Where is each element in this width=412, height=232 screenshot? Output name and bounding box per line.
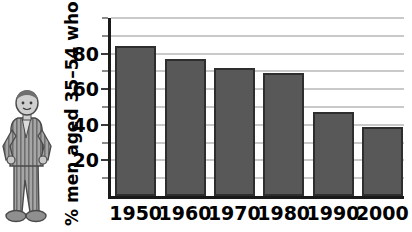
bar [115,46,156,196]
x-tick-label: 1980 [257,202,310,224]
y-tick-label: 40 [73,114,99,136]
y-tick-mark [101,53,108,55]
y-tick-label: 20 [73,149,99,171]
y-tick-mark [101,159,108,161]
gridline [111,17,404,19]
gridline [111,35,404,37]
chart-figure: % men aged 35–54 who smoke 20406080 1950… [0,0,412,232]
y-tick-mark [102,35,108,37]
y-tick-mark [102,106,108,108]
x-tick-label: 1990 [307,202,360,224]
y-tick-mark [102,70,108,72]
plot-area: 20406080 195019601970198019902000 [108,18,404,196]
y-tick-mark [102,17,108,19]
y-tick-mark [102,142,108,144]
y-tick-label: 80 [73,43,99,65]
x-tick-label: 1970 [208,202,261,224]
bar [263,73,304,196]
y-tick-mark [101,124,108,126]
cartoon-man-icon [0,88,58,232]
y-tick-mark [102,177,108,179]
x-tick-label: 1960 [159,202,212,224]
bar [313,112,354,196]
x-tick-label: 1950 [109,202,162,224]
x-tick-label: 2000 [356,202,409,224]
y-tick-label: 60 [73,78,99,100]
y-tick-mark [101,88,108,90]
bar [214,68,255,196]
bar [362,127,403,196]
bar [165,59,206,196]
x-axis-line [108,196,404,199]
